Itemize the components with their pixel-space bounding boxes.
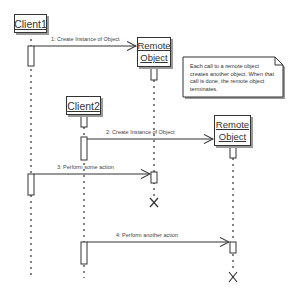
participant-label-line2: Object [219, 131, 246, 143]
termination-x-remote2 [229, 272, 237, 282]
participant-label-line1: Remote [137, 40, 170, 52]
participant-client2[interactable]: Client2 [66, 96, 101, 115]
message-1-label: 1: Create Instance of Object [51, 36, 119, 42]
activation-client2-1 [81, 114, 87, 127]
activation-remote1-1 [151, 67, 157, 80]
activation-client2-2 [81, 137, 87, 160]
participant-label-line1: Remote [216, 119, 249, 131]
participant-label: Client2 [67, 100, 100, 112]
participant-label: Client1 [14, 18, 47, 30]
participant-label-line2: Object [140, 52, 167, 64]
activation-client1-2 [28, 174, 34, 195]
activation-remote2-1 [230, 146, 236, 158]
sequence-diagram: Client1 Remote Object Client2 Remote Obj… [0, 0, 298, 300]
activation-client2-3 [81, 242, 87, 264]
message-4-label: 4: Perform another action [116, 232, 178, 238]
activation-client1-1 [28, 46, 34, 66]
message-3-label: 3: Perform some action [57, 164, 114, 170]
activation-remote1-2 [151, 172, 157, 183]
participant-client1[interactable]: Client1 [14, 14, 47, 33]
participant-remote-object-1[interactable]: Remote Object [137, 37, 171, 67]
participant-remote-object-2[interactable]: Remote Object [214, 115, 251, 146]
note-text: Each call to a remote object creates ano… [190, 63, 275, 93]
note: Each call to a remote object creates ano… [183, 57, 283, 97]
termination-x-remote1 [150, 198, 158, 207]
activation-remote2-2 [230, 242, 236, 253]
message-2-label: 2: Create Instance of Object [106, 129, 174, 135]
